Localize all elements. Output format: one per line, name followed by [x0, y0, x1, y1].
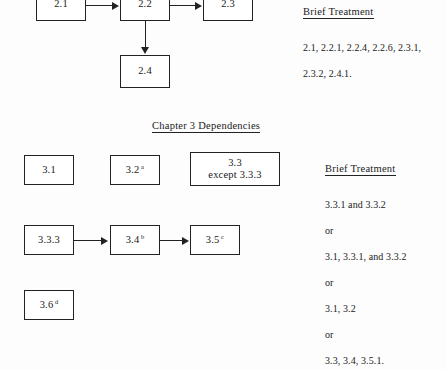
node-3-2-superscript: a: [141, 163, 144, 170]
node-3-5-superscript: c: [221, 233, 224, 240]
arrowhead-3-3-3-to-3-4: [101, 237, 108, 245]
connector-2-2-to-2-3: [170, 5, 196, 6]
chapter3-panel-line: 3.1, 3.3.1, and 3.3.2: [325, 250, 447, 263]
node-3-1[interactable]: 3.1: [24, 155, 74, 185]
chapter3-panel-line: 3.1, 3.2: [325, 302, 447, 315]
node-3-6-label: 3.6: [40, 299, 54, 311]
chapter3-panel-line: or: [325, 328, 447, 341]
node-3-6-superscript: d: [55, 298, 58, 305]
connector-3-3-3-to-3-4: [74, 240, 102, 241]
node-3-5-label: 3.5: [206, 234, 220, 246]
connector-3-4-to-3-5: [160, 240, 183, 241]
node-2-4-label: 2.4: [138, 65, 152, 77]
chapter3-panel-body: 3.3.1 and 3.3.2 or 3.1, 3.3.1, and 3.3.2…: [325, 185, 447, 370]
node-3-3-3-label: 3.3.3: [38, 234, 60, 246]
chapter3-panel-line: or: [325, 276, 447, 289]
chapter3-panel-title: Brief Treatment: [325, 163, 396, 176]
chapter2-panel-line: 2.1, 2.2.1, 2.2.4, 2.2.6, 2.3.1,: [303, 41, 443, 54]
node-3-6-text: 3.6d: [40, 299, 59, 312]
chapter3-panel-line: 3.3, 3.4, 3.5.1.: [325, 354, 447, 367]
chapter3-brief-treatment-panel: Brief Treatment 3.3.1 and 3.3.2 or 3.1, …: [325, 158, 447, 370]
node-2-3-label: 2.3: [221, 0, 235, 11]
node-2-1[interactable]: 2.1: [36, 0, 86, 21]
node-2-1-label: 2.1: [54, 0, 68, 11]
node-3-4[interactable]: 3.4b: [110, 225, 160, 255]
node-3-4-superscript: b: [141, 233, 144, 240]
chapter3-panel-line: or: [325, 224, 447, 237]
node-2-2-label: 2.2: [138, 0, 152, 11]
chapter3-heading: Chapter 3 Dependencies: [152, 120, 260, 133]
node-3-2[interactable]: 3.2a: [110, 155, 160, 185]
arrowhead-2-2-to-2-3: [195, 2, 202, 10]
arrowhead-2-1-to-2-2: [112, 2, 119, 10]
node-3-2-label: 3.2: [126, 164, 140, 176]
chapter2-panel-line: 2.3.2, 2.4.1.: [303, 67, 443, 80]
node-3-1-label: 3.1: [42, 164, 56, 176]
node-3-2-text: 3.2a: [126, 164, 144, 177]
node-3-5-text: 3.5c: [206, 234, 224, 247]
node-2-2[interactable]: 2.2: [120, 0, 170, 21]
chapter2-brief-treatment-panel: Brief Treatment 2.1, 2.2.1, 2.2.4, 2.2.6…: [303, 1, 443, 93]
node-3-4-label: 3.4: [126, 234, 140, 246]
connector-2-2-to-2-4: [145, 21, 146, 48]
chapter2-panel-title: Brief Treatment: [303, 6, 374, 19]
node-3-3-label: 3.3: [228, 157, 242, 169]
node-3-3[interactable]: 3.3 except 3.3.3: [190, 152, 280, 186]
chapter2-panel-body: 2.1, 2.2.1, 2.2.4, 2.2.6, 2.3.1, 2.3.2, …: [303, 28, 443, 93]
arrowhead-3-4-to-3-5: [182, 237, 189, 245]
node-2-4[interactable]: 2.4: [120, 55, 170, 88]
node-2-3[interactable]: 2.3: [203, 0, 253, 21]
connector-2-1-to-2-2: [86, 5, 113, 6]
arrowhead-2-2-to-2-4: [141, 47, 149, 54]
node-3-4-text: 3.4b: [126, 234, 145, 247]
node-3-5[interactable]: 3.5c: [190, 225, 240, 255]
node-3-3-label-secondary: except 3.3.3: [208, 169, 261, 181]
node-3-3-3[interactable]: 3.3.3: [24, 225, 74, 255]
chapter3-panel-line: 3.3.1 and 3.3.2: [325, 198, 447, 211]
node-3-6[interactable]: 3.6d: [24, 290, 74, 320]
